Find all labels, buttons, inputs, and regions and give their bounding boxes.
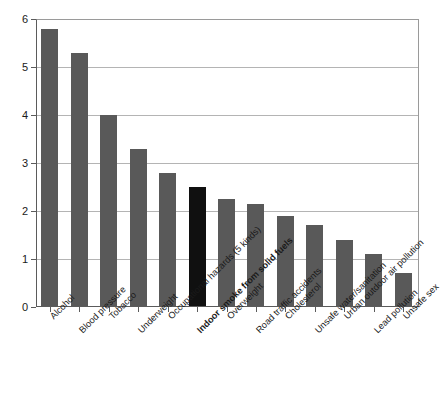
y-axis-tick: 1 <box>0 259 36 260</box>
y-axis-tick: 3 <box>0 163 36 164</box>
bar[interactable] <box>159 173 176 307</box>
y-tick-mark <box>31 163 36 164</box>
y-tick-label: 0 <box>22 299 28 315</box>
x-axis-tick <box>315 307 316 312</box>
y-tick-mark <box>31 19 36 20</box>
y-tick-label: 2 <box>22 203 28 219</box>
y-tick-mark <box>31 67 36 68</box>
x-axis-tick <box>79 307 80 312</box>
y-tick-label: 1 <box>22 251 28 267</box>
y-axis-tick: 0 <box>0 307 36 308</box>
x-axis-tick <box>256 307 257 312</box>
bar[interactable] <box>71 53 88 307</box>
y-tick-label: 6 <box>22 11 28 27</box>
x-axis-tick <box>138 307 139 312</box>
y-axis-tick: 6 <box>0 19 36 20</box>
y-axis: 0123456 <box>0 0 36 420</box>
y-tick-label: 5 <box>22 59 28 75</box>
y-tick-mark <box>31 307 36 308</box>
bar[interactable] <box>100 115 117 307</box>
x-axis-tick <box>197 307 198 312</box>
y-tick-mark <box>31 115 36 116</box>
bar[interactable] <box>41 29 58 307</box>
y-axis-tick: 4 <box>0 115 36 116</box>
y-axis-tick: 5 <box>0 67 36 68</box>
x-axis-tick <box>374 307 375 312</box>
y-tick-label: 3 <box>22 155 28 171</box>
y-tick-mark <box>31 211 36 212</box>
bar[interactable] <box>130 149 147 307</box>
y-tick-mark <box>31 259 36 260</box>
y-axis-tick: 2 <box>0 211 36 212</box>
y-tick-label: 4 <box>22 107 28 123</box>
